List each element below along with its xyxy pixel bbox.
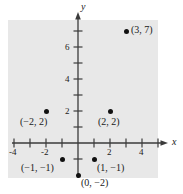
data-point-label-1--1: (1, −1) — [97, 163, 124, 173]
x-tick-label-2: 2 — [107, 148, 112, 157]
data-point-0--2[interactable] — [76, 173, 81, 178]
data-point-2-2[interactable] — [108, 109, 113, 114]
y-tick-label-4: 4 — [65, 75, 70, 84]
data-point-label-3-7: (3, 7) — [131, 25, 153, 35]
y-tick-label-2: 2 — [65, 107, 70, 116]
x-tick-label--2: -2 — [41, 148, 49, 157]
x-tick-label--4: -4 — [9, 148, 17, 157]
y-axis-label: y — [81, 2, 85, 12]
x-axis-arrow — [161, 140, 169, 146]
data-point-label--1--1: (−1, −1) — [21, 163, 54, 173]
y-axis-arrow — [75, 12, 81, 20]
y-tick-label-6: 6 — [65, 43, 70, 52]
data-point-label--2-2: (−2, 2) — [20, 117, 47, 127]
x-tick-label-4: 4 — [139, 148, 144, 157]
data-point--1--1[interactable] — [60, 157, 65, 162]
data-point-label-2-2: (2, 2) — [98, 117, 120, 127]
coordinate-plane-figure: y x -4 -2 2 4 2 4 6 (3, 7) (−2, 2) (2, 2… — [0, 0, 183, 194]
data-point-3-7[interactable] — [124, 29, 129, 34]
data-point-1--1[interactable] — [92, 157, 97, 162]
data-point--2-2[interactable] — [44, 109, 49, 114]
data-point-label-0--2: (0, −2) — [81, 178, 108, 188]
x-axis-label: x — [172, 137, 176, 147]
